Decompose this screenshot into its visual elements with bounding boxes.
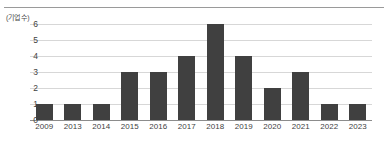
bar[interactable] — [349, 104, 366, 120]
bar-slot — [173, 24, 202, 120]
x-axis-tick-label: 2014 — [87, 122, 116, 131]
bar-slot — [59, 24, 88, 120]
bar-slot — [30, 24, 59, 120]
x-axis-tick-label: 2021 — [287, 122, 316, 131]
bar[interactable] — [235, 56, 252, 120]
bar-series — [30, 24, 372, 120]
bar-slot — [87, 24, 116, 120]
bar[interactable] — [292, 72, 309, 120]
bar-slot — [287, 24, 316, 120]
bar[interactable] — [264, 88, 281, 120]
x-axis-tick-label: 2020 — [258, 122, 287, 131]
x-axis-tick-label: 2015 — [116, 122, 145, 131]
x-axis-tick-label: 2013 — [59, 122, 88, 131]
x-axis-line — [30, 120, 372, 121]
bar-slot — [230, 24, 259, 120]
bar-chart-figure: (기업 수) 0123456 2009201320142015201620172… — [0, 0, 388, 152]
x-axis-tick-label: 2022 — [315, 122, 344, 131]
bar[interactable] — [64, 104, 81, 120]
bar-slot — [344, 24, 373, 120]
x-axis-tick-labels: 2009201320142015201620172018201920202021… — [30, 122, 372, 131]
bar[interactable] — [36, 104, 53, 120]
bar[interactable] — [121, 72, 138, 120]
x-axis-tick-label: 2018 — [201, 122, 230, 131]
x-axis-tick-label: 2009 — [30, 122, 59, 131]
bar[interactable] — [178, 56, 195, 120]
bar-slot — [116, 24, 145, 120]
x-axis-tick-label: 2016 — [144, 122, 173, 131]
top-divider-rule — [4, 7, 384, 8]
x-axis-tick-label: 2019 — [230, 122, 259, 131]
bar-slot — [258, 24, 287, 120]
x-axis-tick-label: 2023 — [344, 122, 373, 131]
bar[interactable] — [207, 24, 224, 120]
bar[interactable] — [93, 104, 110, 120]
bar-slot — [144, 24, 173, 120]
x-axis-tick-label: 2017 — [173, 122, 202, 131]
bar-slot — [201, 24, 230, 120]
bar-slot — [315, 24, 344, 120]
bar[interactable] — [150, 72, 167, 120]
bar[interactable] — [321, 104, 338, 120]
